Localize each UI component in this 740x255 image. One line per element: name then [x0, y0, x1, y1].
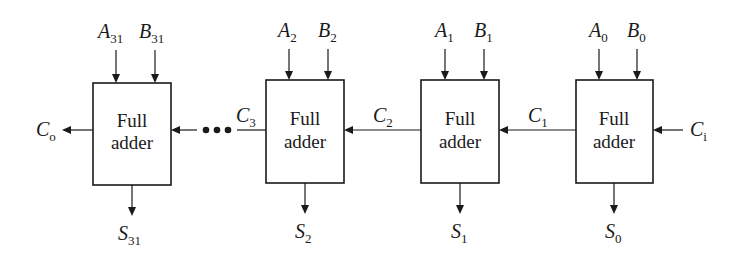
arrow-left-icon [171, 126, 180, 134]
ripple-carry-adder-diagram: Full adder A31 B31 S31 Co C3 Full adder … [0, 0, 740, 255]
arrow-down-icon [112, 74, 120, 83]
output-s31-label: S31 [118, 222, 141, 248]
full-adder-0-label-line2: adder [593, 131, 636, 152]
arrow-down-icon [301, 205, 309, 214]
arrow-left-icon [499, 126, 508, 134]
output-s1-label: S1 [451, 220, 468, 246]
arrow-down-icon [128, 207, 136, 216]
full-adder-31: Full adder A31 B31 S31 [93, 20, 171, 248]
arrow-down-icon [151, 74, 159, 83]
full-adder-0: Full adder A0 B0 S0 [576, 19, 653, 246]
carry-in-label: Ci [690, 118, 707, 144]
input-a1-label: A1 [433, 19, 454, 45]
input-b2-label: B2 [318, 19, 337, 45]
full-adder-2-label-line1: Full [290, 108, 321, 129]
arrow-left-icon [653, 126, 662, 134]
input-b1-label: B1 [474, 19, 493, 45]
arrow-down-icon [441, 71, 449, 80]
full-adder-1-label-line1: Full [445, 108, 476, 129]
ellipsis-dots [203, 127, 232, 134]
arrow-down-icon [633, 71, 641, 80]
arrow-down-icon [285, 71, 293, 80]
arrow-left-icon [62, 126, 71, 134]
carry-out-label: Co [36, 118, 56, 144]
full-adder-1-label-line2: adder [439, 131, 482, 152]
carry-c2-label: C2 [373, 104, 393, 130]
input-a2-label: A2 [276, 19, 297, 45]
arrow-down-icon [324, 71, 332, 80]
full-adder-31-label-line2: adder [111, 132, 154, 153]
input-b0-label: B0 [627, 19, 646, 45]
full-adder-2: Full adder A2 B2 S2 [266, 19, 344, 246]
arrow-down-icon [610, 205, 618, 214]
full-adder-1: Full adder A1 B1 S1 [421, 19, 499, 246]
arrow-down-icon [456, 205, 464, 214]
full-adder-2-label-line2: adder [284, 131, 327, 152]
arrow-down-icon [480, 71, 488, 80]
carry-c1-label: C1 [528, 104, 548, 130]
input-a0-label: A0 [587, 19, 608, 45]
full-adder-31-label-line1: Full [117, 110, 148, 131]
carry-c3-label: C3 [236, 104, 256, 130]
arrow-down-icon [595, 71, 603, 80]
output-s0-label: S0 [605, 220, 622, 246]
output-s2-label: S2 [295, 220, 312, 246]
arrow-left-icon [344, 126, 353, 134]
input-a31-label: A31 [96, 20, 123, 46]
full-adder-0-label-line1: Full [599, 108, 630, 129]
input-b31-label: B31 [139, 20, 164, 46]
